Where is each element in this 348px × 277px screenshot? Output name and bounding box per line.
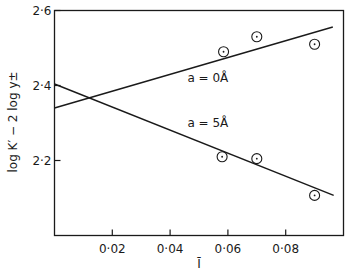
data-point-dot <box>223 51 225 53</box>
data-point-dot <box>256 36 258 38</box>
data-points <box>217 32 319 201</box>
series-annotations: a = 0Åa = 5Å <box>187 70 229 130</box>
x-tick-label: 0·04 <box>157 242 184 256</box>
x-tick-label: 0·08 <box>272 242 299 256</box>
y-tick-label: 2·6 <box>32 4 51 18</box>
data-point-dot <box>221 156 223 158</box>
x-tick-label: 0·02 <box>99 242 126 256</box>
x-tick-label: 0·06 <box>215 242 242 256</box>
series-label: a = 0Å <box>187 70 229 85</box>
data-point-dot <box>314 43 316 45</box>
data-point-dot <box>256 158 258 160</box>
y-tick-label: 2·4 <box>32 79 51 93</box>
fit-line-0 <box>55 27 333 108</box>
x-axis-title: Ī <box>197 257 201 271</box>
fit-line-1 <box>55 84 334 195</box>
y-axis-title: log K′ − 2 log y± <box>6 71 20 172</box>
fit-lines <box>55 27 334 195</box>
y-axis-ticks: 2·22·42·6 <box>32 4 60 168</box>
chart-canvas: 0·020·040·060·08 2·22·42·6 a = 0Åa = 5Å … <box>0 0 348 277</box>
data-point-dot <box>314 194 316 196</box>
x-axis-ticks: 0·020·040·060·08 <box>99 230 299 256</box>
y-tick-label: 2·2 <box>32 154 51 168</box>
series-label: a = 5Å <box>187 115 229 130</box>
